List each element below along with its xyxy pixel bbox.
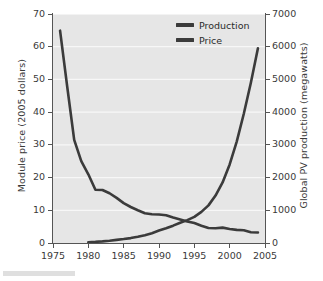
right-tick-mark-3	[266, 144, 270, 145]
x-tick-mark-1	[88, 244, 89, 248]
left-tick-mark-6	[48, 46, 52, 47]
right-tick-label-2: 2000	[272, 171, 312, 182]
legend-label-price: Price	[199, 35, 222, 46]
left-tick-mark-4	[48, 112, 52, 113]
x-tick-mark-0	[53, 244, 54, 248]
left-tick-mark-3	[48, 144, 52, 145]
left-tick-mark-5	[48, 79, 52, 80]
left-tick-label-5: 50	[5, 73, 45, 84]
left-tick-mark-1	[48, 210, 52, 211]
right-tick-mark-7	[266, 14, 270, 15]
chart-legend: Production Price	[176, 19, 250, 46]
x-tick-mark-6	[265, 244, 266, 248]
right-tick-mark-0	[266, 243, 270, 244]
legend-item-production: Production	[176, 19, 250, 31]
left-tick-label-3: 30	[5, 138, 45, 149]
x-tick-mark-2	[123, 244, 124, 248]
right-tick-mark-4	[266, 112, 270, 113]
x-tick-mark-4	[194, 244, 195, 248]
legend-swatch-production	[176, 23, 194, 27]
legend-item-price: Price	[176, 34, 250, 46]
left-tick-label-1: 10	[5, 204, 45, 215]
legend-label-production: Production	[199, 20, 250, 31]
right-axis-title: Global PV production (megawatts)	[298, 26, 309, 226]
series-line-price	[60, 31, 258, 233]
left-axis-spine	[52, 13, 53, 244]
left-tick-label-6: 60	[5, 40, 45, 51]
right-tick-label-6: 6000	[272, 40, 312, 51]
plot-area	[53, 14, 265, 243]
right-tick-label-1: 1000	[272, 204, 312, 215]
right-tick-mark-1	[266, 210, 270, 211]
x-tick-mark-3	[159, 244, 160, 248]
left-tick-label-7: 70	[5, 8, 45, 19]
left-tick-label-0: 0	[5, 237, 45, 248]
x-tick-label-6: 2005	[242, 250, 288, 261]
right-tick-mark-6	[266, 46, 270, 47]
right-tick-label-7: 7000	[272, 8, 312, 19]
x-tick-mark-5	[229, 244, 230, 248]
plot-canvas	[53, 14, 265, 243]
right-tick-label-3: 3000	[272, 138, 312, 149]
right-tick-mark-5	[266, 79, 270, 80]
left-tick-label-4: 40	[5, 106, 45, 117]
left-tick-label-2: 20	[5, 171, 45, 182]
legend-swatch-price	[176, 38, 194, 42]
right-tick-label-0: 0	[272, 237, 312, 248]
left-axis-title: Module price (2005 dollars)	[16, 26, 27, 226]
right-tick-label-5: 5000	[272, 73, 312, 84]
chart-figure: Module price (2005 dollars) Global PV pr…	[0, 0, 323, 281]
right-tick-mark-2	[266, 177, 270, 178]
left-tick-mark-2	[48, 177, 52, 178]
caption-smudge	[3, 271, 75, 276]
left-tick-mark-0	[48, 243, 52, 244]
right-tick-label-4: 4000	[272, 106, 312, 117]
left-tick-mark-7	[48, 14, 52, 15]
